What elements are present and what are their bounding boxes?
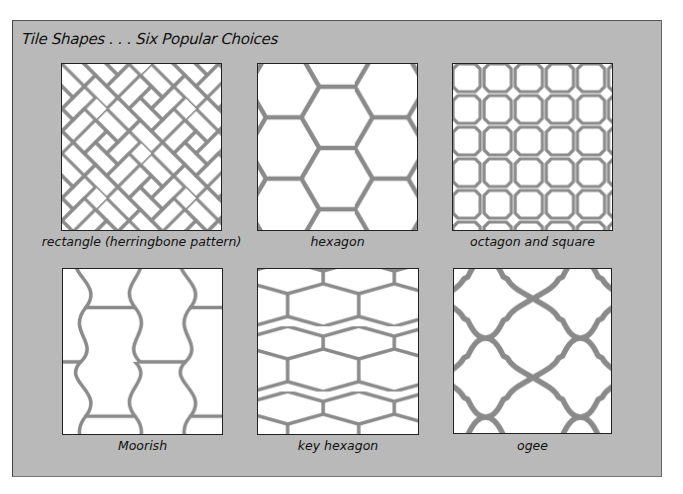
hexagon-pattern-swatch (257, 63, 418, 231)
tile-herringbone: rectangle (herringbone pattern) (61, 63, 222, 231)
herringbone-pattern-swatch (61, 63, 222, 231)
tile-caption: ogee (413, 438, 652, 453)
moorish-pattern-swatch (62, 268, 223, 435)
ogee-pattern-swatch (453, 268, 612, 434)
tile-octagon-square: octagon and square (452, 63, 613, 231)
tile-key-hexagon: key hexagon (257, 268, 419, 435)
tile-moorish: Moorish (62, 268, 223, 435)
figure-title: Tile Shapes . . . Six Popular Choices (21, 30, 278, 48)
tile-hexagon: hexagon (257, 63, 418, 231)
key-hexagon-pattern-swatch (257, 268, 419, 435)
octagon-square-pattern-swatch (452, 63, 613, 231)
tile-ogee: ogee (453, 268, 612, 434)
tile-caption: octagon and square (412, 234, 653, 249)
